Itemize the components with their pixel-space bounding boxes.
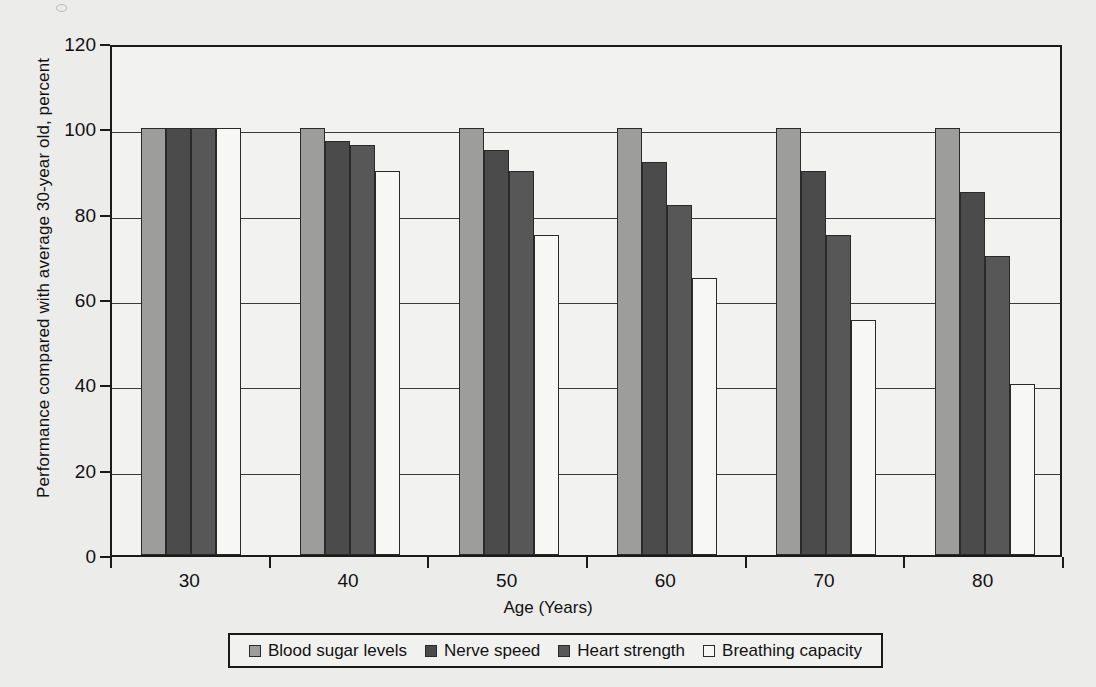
x-tick-mark [269,557,271,568]
bar [1010,384,1035,555]
bar [935,128,960,555]
y-tick-label: 100 [34,119,96,141]
gridline [112,218,1060,219]
x-tick-label: 30 [149,570,229,592]
bar [166,128,191,555]
y-tick-label: 20 [34,461,96,483]
x-tick-mark [110,557,112,568]
x-tick-mark [745,557,747,568]
x-tick-label: 80 [943,570,1023,592]
scan-artifact-speck [56,4,67,12]
y-tick-mark [100,385,110,387]
legend-item[interactable]: Heart strength [558,641,685,661]
bar [642,162,667,555]
bar [509,171,534,555]
gridline [112,388,1060,389]
x-axis-title: Age (Years) [0,598,1096,618]
bar [216,128,241,555]
legend-item[interactable]: Blood sugar levels [249,641,407,661]
bar [484,150,509,555]
legend-swatch-icon [558,645,570,657]
y-tick-mark [100,471,110,473]
x-tick-mark [1062,557,1064,568]
x-tick-mark [427,557,429,568]
bar [776,128,801,555]
legend-swatch-icon [249,645,261,657]
y-tick-mark [100,300,110,302]
x-tick-mark [903,557,905,568]
legend-swatch-icon [425,645,437,657]
x-tick-label: 50 [467,570,547,592]
legend-label: Blood sugar levels [268,641,407,661]
bar [191,128,216,555]
legend-label: Heart strength [577,641,685,661]
y-tick-mark [100,556,110,558]
bar [141,128,166,555]
bar [325,141,350,555]
bar [617,128,642,555]
y-tick-label: 0 [34,546,96,568]
bar [459,128,484,555]
y-tick-label: 120 [34,34,96,56]
legend-item[interactable]: Nerve speed [425,641,540,661]
y-tick-mark [100,129,110,131]
x-tick-label: 70 [784,570,864,592]
bar [667,205,692,555]
bar [851,320,876,555]
bar [375,171,400,555]
gridline [112,132,1060,133]
legend-item[interactable]: Breathing capacity [703,641,862,661]
x-tick-label: 60 [625,570,705,592]
chart-legend: Blood sugar levelsNerve speedHeart stren… [228,633,883,668]
x-tick-mark [586,557,588,568]
chart-canvas: Performance compared with average 30-yea… [0,0,1096,687]
y-tick-label: 60 [34,290,96,312]
bar [985,256,1010,555]
bar [534,235,559,555]
bar [960,192,985,555]
plot-area [110,45,1062,557]
legend-swatch-icon [703,645,715,657]
x-tick-label: 40 [308,570,388,592]
legend-label: Nerve speed [444,641,540,661]
bar [826,235,851,555]
bar [300,128,325,555]
y-tick-label: 80 [34,205,96,227]
bar [350,145,375,555]
y-tick-label: 40 [34,375,96,397]
legend-label: Breathing capacity [722,641,862,661]
gridline [112,303,1060,304]
bar [801,171,826,555]
y-tick-mark [100,215,110,217]
y-tick-mark [100,44,110,46]
gridline [112,474,1060,475]
bar [692,278,717,555]
